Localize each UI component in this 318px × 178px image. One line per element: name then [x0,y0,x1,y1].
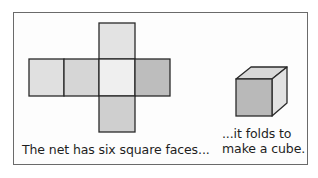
cube-caption: ...it folds to make a cube. [222,126,305,156]
net-face-bottom [99,96,135,132]
cube-net [29,23,170,132]
net-caption: The net has six square faces... [22,142,210,157]
net-face-center [99,59,135,96]
cube-front-face [236,79,272,116]
net-face-middle-left [64,59,99,96]
net-face-top [99,23,135,59]
net-face-right [135,59,170,96]
net-face-left [29,59,64,96]
cube-caption-line-2: make a cube. [222,141,305,156]
cube-caption-line-1: ...it folds to [222,126,305,141]
cube-3d [236,67,287,116]
